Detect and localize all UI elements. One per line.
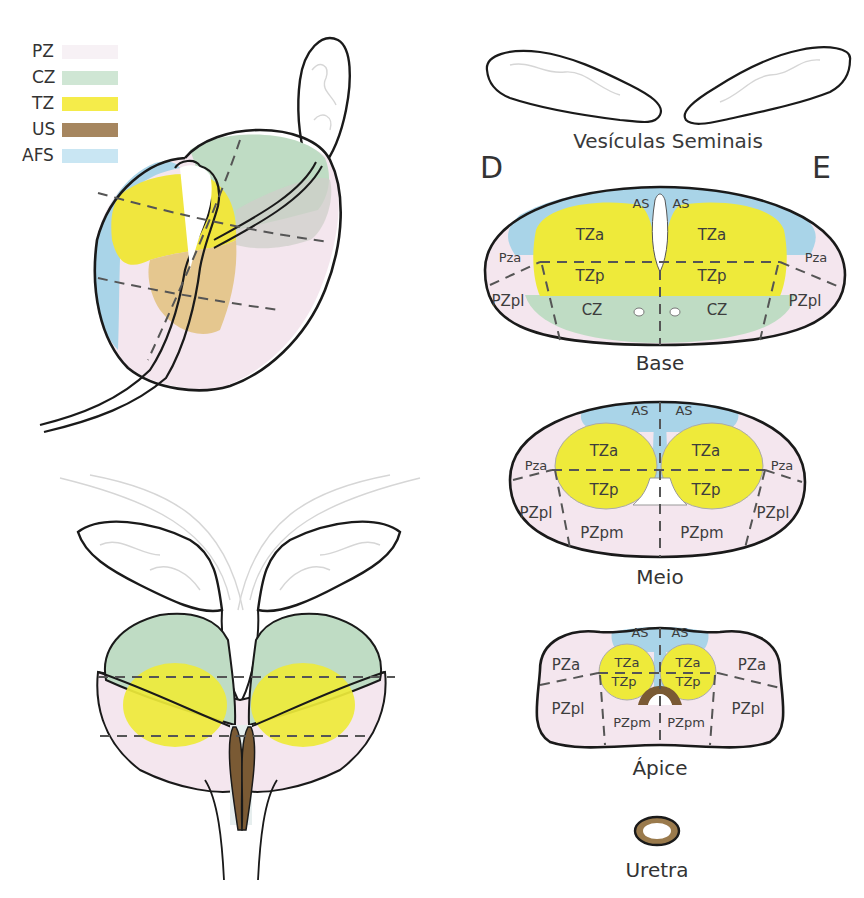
legend-swatch-cz: [62, 71, 118, 85]
meio-label-as-left: AS: [631, 403, 648, 418]
seminal-vesicle-left-side: [685, 47, 850, 124]
base-label-pza-right: Pza: [805, 250, 828, 265]
side-label-right: D: [480, 150, 503, 185]
base-label-as-left: AS: [632, 196, 649, 211]
base-label-tza-left: TZa: [575, 226, 605, 244]
base-label-as-right: AS: [672, 196, 689, 211]
section-base: AS AS TZa TZa TZp TZp Pza Pza PZpl PZpl …: [485, 187, 845, 375]
base-label-pza-left: Pza: [499, 250, 522, 265]
apice-label-pza-left: PZa: [552, 656, 581, 674]
apice-label-pzpm-left: PZpm: [613, 715, 651, 730]
seminal-vesicle-right-side: [487, 51, 661, 122]
meio-label-pzpl-right: PZpl: [756, 504, 789, 522]
apice-label-tza-left: TZa: [614, 655, 640, 670]
apice-label-as-right: AS: [671, 625, 688, 640]
caption-apice: Ápice: [632, 756, 687, 780]
apice-label-pzpl-left: PZpl: [551, 700, 584, 718]
apice-label-as-left: AS: [631, 625, 648, 640]
meio-label-tzp-left: TZp: [589, 481, 619, 499]
prostate-zones-diagram: PZ CZ TZ US AFS: [0, 0, 864, 898]
seminal-vesicles-title: Vesículas Seminais: [573, 129, 763, 153]
apice-label-tzp-left: TZp: [610, 674, 636, 689]
legend-label-pz: PZ: [32, 41, 54, 61]
meio-label-pza-left: Pza: [525, 458, 548, 473]
base-label-pzpl-left: PZpl: [491, 292, 524, 310]
seminal-vesicles-axial: Vesículas Seminais D E: [480, 47, 850, 185]
meio-label-tza-left: TZa: [589, 442, 619, 460]
side-label-left: E: [812, 150, 831, 185]
caption-meio: Meio: [636, 565, 683, 589]
legend-label-tz: TZ: [31, 93, 54, 113]
base-label-cz-right: CZ: [707, 301, 728, 319]
seminal-vesicle-left-coronal: [78, 522, 222, 611]
caption-base: Base: [636, 351, 685, 375]
meio-label-pzpm-right: PZpm: [680, 524, 723, 542]
coronal-view: [60, 475, 420, 880]
base-label-cz-left: CZ: [582, 301, 603, 319]
base-label-tza-right: TZa: [697, 226, 727, 244]
legend-label-afs: AFS: [22, 145, 54, 165]
meio-label-pza-right: Pza: [771, 458, 794, 473]
meio-label-as-right: AS: [675, 403, 692, 418]
base-label-pzpl-right: PZpl: [788, 292, 821, 310]
us-right-coronal: [242, 727, 255, 830]
meio-label-pzpm-left: PZpm: [580, 524, 623, 542]
caption-uretra: Uretra: [625, 858, 688, 882]
apice-label-pzpl-right: PZpl: [731, 700, 764, 718]
urethra-cross-section: Uretra: [625, 817, 688, 882]
legend-label-cz: CZ: [32, 67, 56, 87]
legend-label-us: US: [32, 119, 55, 139]
meio-label-pzpl-left: PZpl: [519, 504, 552, 522]
apice-label-pza-right: PZa: [738, 656, 767, 674]
apice-label-tzp-right: TZp: [674, 674, 700, 689]
seminal-vesicle-right-coronal: [258, 522, 400, 611]
apice-label-tza-right: TZa: [675, 655, 701, 670]
section-meio: AS AS TZa TZa TZp TZp Pza Pza PZpl PZpl …: [510, 402, 805, 589]
base-label-tzp-left: TZp: [575, 267, 605, 285]
legend-swatch-tz: [62, 97, 118, 111]
section-apice: AS AS TZa TZa TZp TZp PZa PZa PZpl PZpl …: [537, 625, 784, 780]
meio-label-tzp-right: TZp: [691, 481, 721, 499]
apice-label-pzpm-right: PZpm: [667, 715, 705, 730]
tz-left-coronal: [123, 663, 227, 747]
legend-swatch-pz: [62, 45, 118, 59]
legend-swatch-afs: [62, 149, 118, 163]
legend: PZ CZ TZ US AFS: [22, 41, 118, 165]
meio-label-tza-right: TZa: [691, 442, 721, 460]
base-label-tzp-right: TZp: [697, 267, 727, 285]
legend-swatch-us: [62, 123, 118, 137]
